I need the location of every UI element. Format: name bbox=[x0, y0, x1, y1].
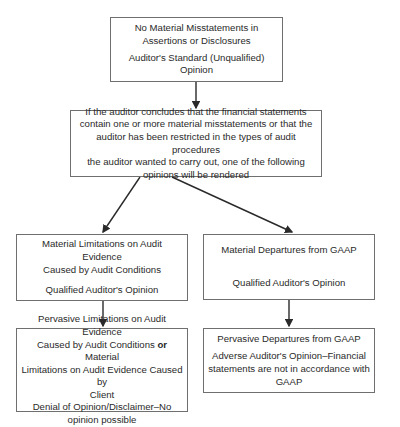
node-title: No Material Misstatements in bbox=[135, 22, 259, 35]
condition-text: contain one or more material misstatemen… bbox=[80, 118, 313, 131]
node-title-part: Caused by Audit Conditions bbox=[37, 339, 158, 350]
node-title: Pervasive Limitations on Audit Evidence bbox=[21, 313, 183, 338]
node-qualified-departures: Material Departures from GAAP Qualified … bbox=[203, 234, 375, 300]
arrow-condition-to-left bbox=[103, 177, 140, 232]
node-title: Material Limitations on Audit Evidence bbox=[21, 238, 183, 263]
node-opinion: Qualified Auditor's Opinion bbox=[46, 284, 159, 297]
node-condition: If the auditor concludes that the financ… bbox=[70, 110, 322, 177]
condition-text: If the auditor concludes that the financ… bbox=[85, 106, 306, 119]
node-opinion: statements are not in accordance with bbox=[208, 363, 370, 376]
condition-text: the auditor wanted to carry out, one of … bbox=[87, 156, 305, 169]
condition-text: opinions will be rendered bbox=[143, 169, 249, 182]
node-title: Assertions or Disclosures bbox=[142, 35, 250, 48]
node-opinion: Auditor's Standard (Unqualified) Opinion bbox=[115, 52, 278, 77]
node-disclaimer: Pervasive Limitations on Audit Evidence … bbox=[16, 328, 188, 412]
node-opinion: Qualified Auditor's Opinion bbox=[233, 277, 346, 290]
node-opinion: Adverse Auditor's Opinion–Financial bbox=[212, 350, 366, 363]
node-unqualified-opinion: No Material Misstatements in Assertions … bbox=[110, 17, 283, 82]
node-adverse: Pervasive Departures from GAAP Adverse A… bbox=[203, 328, 375, 393]
or-emphasis: or bbox=[157, 339, 167, 350]
node-opinion: Denial of Opinion/Disclaimer–No bbox=[33, 401, 172, 414]
node-title: Caused by Audit Conditions bbox=[43, 264, 161, 277]
condition-text: auditor has been restricted in the types… bbox=[75, 131, 317, 156]
node-title: Pervasive Departures from GAAP bbox=[217, 333, 360, 346]
node-title: Caused by Audit Conditions or Material bbox=[21, 339, 183, 364]
node-title: Limitations on Audit Evidence Caused by bbox=[21, 364, 183, 389]
arrow-condition-to-right bbox=[172, 177, 292, 232]
node-title: Client bbox=[90, 389, 115, 402]
node-qualified-limitations: Material Limitations on Audit Evidence C… bbox=[16, 234, 188, 301]
node-opinion: opinion possible bbox=[68, 414, 137, 427]
node-title-part: Material bbox=[85, 351, 119, 362]
node-opinion: GAAP bbox=[276, 376, 303, 389]
node-title: Material Departures from GAAP bbox=[221, 244, 356, 257]
